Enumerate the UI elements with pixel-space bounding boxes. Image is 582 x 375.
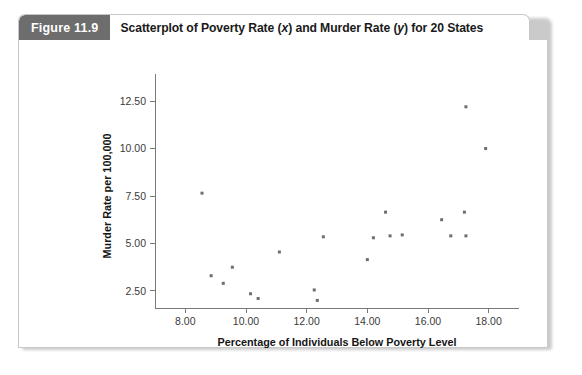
y-tick-label: 2.50 — [126, 285, 147, 297]
figure-caption-suffix: ) for 20 States — [404, 21, 483, 35]
data-point — [384, 211, 387, 214]
y-tick-label: 5.00 — [126, 237, 147, 249]
y-tick-label: 12.50 — [120, 95, 146, 107]
data-point — [231, 266, 234, 269]
data-point — [401, 233, 404, 236]
data-point — [440, 218, 443, 221]
x-tick-label: 16.00 — [415, 315, 441, 327]
y-axis-title: Murder Rate per 100,000 — [101, 134, 113, 259]
data-point — [210, 274, 213, 277]
data-point — [222, 282, 225, 285]
x-tick-label: 14.00 — [354, 315, 380, 327]
data-point — [322, 235, 325, 238]
data-point — [464, 105, 467, 108]
figure-container: Figure 11.9 Scatterplot of Poverty Rate … — [0, 0, 582, 375]
data-point — [484, 147, 487, 150]
data-point — [201, 192, 204, 195]
figure-caption-prefix: Scatterplot of Poverty Rate ( — [121, 21, 282, 35]
y-tick-label: 7.50 — [126, 190, 147, 202]
data-point — [366, 258, 369, 261]
data-point — [372, 236, 375, 239]
figure-panel: 2.505.007.5010.0012.50 8.0010.0012.0014.… — [18, 39, 548, 348]
figure-caption-mid: ) and Murder Rate ( — [288, 21, 397, 35]
data-points — [201, 105, 488, 302]
x-axis-title: Percentage of Individuals Below Poverty … — [218, 336, 457, 348]
x-tick-label: 8.00 — [175, 315, 196, 327]
x-tick-label: 18.00 — [476, 315, 502, 327]
figure-title-bar: Figure 11.9 Scatterplot of Poverty Rate … — [18, 14, 530, 40]
data-point — [278, 251, 281, 254]
figure-caption-x-var: x — [282, 21, 289, 35]
data-point — [316, 299, 319, 302]
data-point — [249, 292, 252, 295]
plot-area: 2.505.007.5010.0012.50 8.0010.0012.0014.… — [19, 40, 549, 349]
x-axis: 8.0010.0012.0014.0016.0018.00 — [155, 308, 519, 327]
figure-number-label: Figure 11.9 — [19, 15, 110, 40]
y-tick-label: 10.00 — [120, 142, 146, 154]
data-point — [449, 234, 452, 237]
data-point — [257, 297, 260, 300]
figure-caption: Scatterplot of Poverty Rate (x) and Murd… — [110, 15, 484, 40]
y-axis: 2.505.007.5010.0012.50 — [120, 74, 155, 308]
data-point — [464, 234, 467, 237]
figure-caption-y-var: y — [397, 21, 404, 35]
data-point — [389, 234, 392, 237]
x-tick-label: 10.00 — [233, 315, 259, 327]
x-tick-label: 12.00 — [294, 315, 320, 327]
data-point — [313, 288, 316, 291]
scatterplot-svg: 2.505.007.5010.0012.50 8.0010.0012.0014.… — [19, 40, 549, 349]
data-point — [463, 211, 466, 214]
